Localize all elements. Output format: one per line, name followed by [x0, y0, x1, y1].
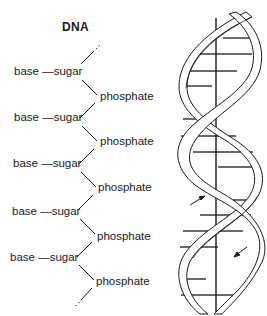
dna-diagram-graphics	[0, 0, 267, 316]
up-left-arrow-icon	[190, 196, 205, 205]
down-left-arrow-icon	[234, 247, 247, 257]
double-helix	[178, 12, 265, 314]
strand-a	[179, 12, 263, 314]
backbone-bonds	[74, 44, 101, 308]
